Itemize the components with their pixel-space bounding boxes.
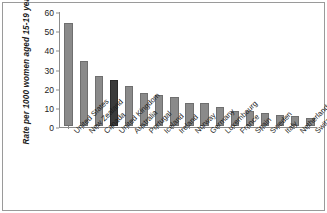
x-axis-tick-mark xyxy=(158,126,159,129)
x-axis-label-luxembourg: Luxembourg xyxy=(223,129,229,135)
x-axis-label-sweden: Sweden xyxy=(268,129,274,135)
x-axis-tick-mark xyxy=(204,126,205,129)
y-axis-tick-labels: 0102030405060 xyxy=(33,12,57,128)
y-axis-title: Rate per 1000 women aged 15-19 years xyxy=(22,0,31,145)
x-axis-label-united-kingdom: United Kingdom xyxy=(117,129,123,135)
y-axis-tick-20: 20 xyxy=(45,85,54,95)
x-axis-label-canada: Canada xyxy=(102,129,108,135)
y-axis-tick-60: 60 xyxy=(45,8,54,18)
x-axis-label-netherlands: Netherlands xyxy=(298,129,304,135)
x-axis-label-spain: Spain xyxy=(253,129,259,135)
x-axis-tick-mark xyxy=(264,126,265,129)
x-axis-tick-mark xyxy=(128,126,129,129)
y-axis-tick-10: 10 xyxy=(45,104,54,114)
y-axis-tick-30: 30 xyxy=(45,66,54,76)
y-axis-tick-50: 50 xyxy=(45,27,54,37)
x-axis-label-switzerland: Switzerland xyxy=(313,129,319,135)
x-axis-label-australia: Australia xyxy=(132,129,138,135)
x-axis-tick-mark xyxy=(143,126,144,129)
x-axis-tick-mark xyxy=(113,126,114,129)
y-axis-tick-0: 0 xyxy=(49,123,54,133)
x-axis-label-portugal: Portugal xyxy=(147,129,153,135)
y-axis-tick-40: 40 xyxy=(45,46,54,56)
x-axis-label-united-states: United States xyxy=(72,129,78,135)
x-axis-tick-mark xyxy=(83,126,84,129)
x-axis-label-france: France xyxy=(238,129,244,135)
x-axis-label-germany: Germany xyxy=(208,129,214,135)
x-axis-tick-mark xyxy=(98,126,99,129)
x-axis-tick-mark xyxy=(189,126,190,129)
x-axis-label-norway: Norway xyxy=(193,129,199,135)
x-axis-label-italy: Italy xyxy=(283,129,289,135)
chart-screenshot: Rate per 1000 women aged 15-19 years 010… xyxy=(0,0,327,213)
x-axis-tick-mark xyxy=(234,126,235,129)
bar-united-states xyxy=(64,23,72,127)
chart-frame: Rate per 1000 women aged 15-19 years 010… xyxy=(2,2,325,211)
x-axis-tick-labels: United StatesNew ZealandCanadaUnited Kin… xyxy=(59,129,319,213)
x-axis-tick-mark xyxy=(279,126,280,129)
x-axis-tick-mark xyxy=(173,126,174,129)
x-axis-label-ireland: Ireland xyxy=(177,129,183,135)
x-axis-tick-mark xyxy=(309,126,310,129)
x-axis-tick-mark xyxy=(294,126,295,129)
x-axis-label-iceland: Iceland xyxy=(162,129,168,135)
x-axis-tick-mark xyxy=(219,126,220,129)
x-axis-label-new-zealand: New Zealand xyxy=(87,129,93,135)
x-axis-tick-mark xyxy=(68,126,69,129)
x-axis-tick-mark xyxy=(249,126,250,129)
